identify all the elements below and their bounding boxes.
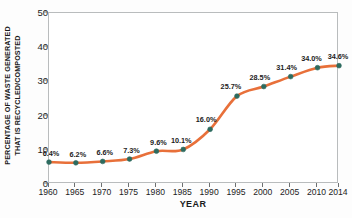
recycling-rate-line-chart: PERCENTAGE OF WASTE GENERATED THAT IS RE… — [0, 0, 352, 218]
x-tick-label: 1995 — [226, 187, 245, 197]
y-axis: 01020304050 — [0, 12, 48, 183]
data-point-marker — [337, 63, 342, 68]
data-point-value-label: 16.0% — [196, 115, 217, 124]
data-point-marker — [181, 147, 186, 152]
data-point-value-label: 25.7% — [221, 82, 242, 91]
series-line — [49, 66, 339, 163]
x-tick-label: 1960 — [38, 187, 57, 197]
data-point-value-label: 6.6% — [96, 148, 113, 157]
data-point-value-label: 6.4% — [43, 149, 60, 158]
y-tick-label: 10 — [4, 143, 48, 154]
x-tick-mark — [182, 183, 183, 187]
data-point-marker — [208, 127, 213, 132]
x-tick-label: 2010 — [307, 187, 326, 197]
y-tick-label: 50 — [4, 7, 48, 18]
x-tick-mark — [155, 183, 156, 187]
data-point-value-label: 7.3% — [123, 146, 140, 155]
x-axis-title: YEAR — [48, 199, 338, 209]
x-tick-mark — [338, 183, 339, 187]
data-point-marker — [47, 160, 52, 165]
data-point-marker — [100, 159, 105, 164]
y-tick-label: 20 — [4, 109, 48, 120]
x-tick-label: 1985 — [173, 187, 192, 197]
x-tick-mark — [262, 183, 263, 187]
x-tick-label: 1990 — [200, 187, 219, 197]
data-point-value-label: 34.6% — [328, 52, 349, 61]
data-point-marker — [127, 157, 132, 162]
data-point-marker — [235, 94, 240, 99]
data-point-marker — [73, 160, 78, 165]
data-point-value-label: 6.2% — [70, 150, 87, 159]
y-tick-label: 30 — [4, 75, 48, 86]
data-point-value-label: 34.0% — [301, 54, 322, 63]
x-tick-label: 2014 — [328, 187, 347, 197]
x-tick-mark — [209, 183, 210, 187]
x-tick-mark — [48, 183, 49, 187]
data-point-value-label: 28.5% — [249, 73, 270, 82]
x-tick-mark — [74, 183, 75, 187]
x-tick-mark — [235, 183, 236, 187]
x-tick-label: 1970 — [92, 187, 111, 197]
x-tick-label: 1965 — [65, 187, 84, 197]
data-point-marker — [154, 149, 159, 154]
data-point-marker — [261, 84, 266, 89]
data-point-value-label: 10.1% — [171, 136, 192, 145]
y-tick-label: 40 — [4, 41, 48, 52]
x-tick-label: 1975 — [119, 187, 138, 197]
x-tick-mark — [128, 183, 129, 187]
plot-area: 6.4%6.2%6.6%7.3%9.6%10.1%16.0%25.7%28.5%… — [48, 12, 338, 183]
x-tick-mark — [316, 183, 317, 187]
data-point-marker — [288, 74, 293, 79]
x-tick-label: 1980 — [146, 187, 165, 197]
x-tick-label: 2005 — [280, 187, 299, 197]
data-point-value-label: 31.4% — [276, 63, 297, 72]
x-tick-mark — [289, 183, 290, 187]
x-tick-label: 2000 — [253, 187, 272, 197]
x-tick-mark — [101, 183, 102, 187]
data-point-value-label: 9.6% — [150, 138, 167, 147]
data-series-line — [49, 13, 339, 184]
data-point-marker — [315, 65, 320, 70]
